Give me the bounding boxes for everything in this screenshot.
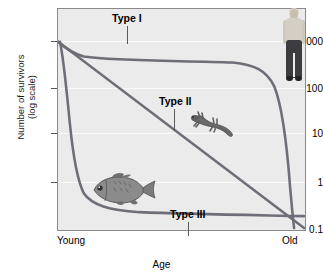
series-label-type-i: Type I: [112, 12, 142, 24]
x-axis-end-label: Old: [282, 235, 298, 246]
leader-line-type-ii: [174, 109, 175, 131]
human-shoe-left: [286, 76, 293, 81]
human-torso: [286, 18, 302, 42]
lizard-figure-icon: [187, 110, 235, 140]
series-label-type-ii: Type II: [159, 95, 191, 107]
leader-line-type-iii: [188, 222, 189, 236]
survivorship-curve-figure: Number of survivors (log scale) 1,000 10…: [0, 0, 323, 278]
human-leg-gap: [293, 53, 295, 77]
leader-line-type-i: [127, 26, 128, 44]
human-figure-icon: [281, 9, 307, 82]
human-shoe-right: [295, 76, 302, 81]
series-label-type-iii: Type III: [170, 208, 205, 220]
x-axis-title: Age: [0, 259, 323, 270]
x-axis-start-label: Young: [57, 235, 85, 246]
fish-figure-icon: [86, 172, 156, 206]
y-axis-title: Number of survivors (log scale): [15, 22, 37, 172]
